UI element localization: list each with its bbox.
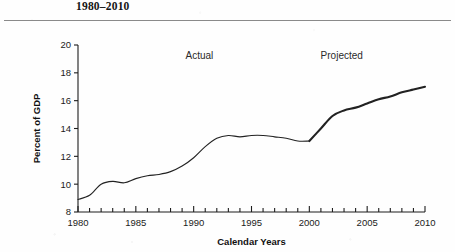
y-axis: 8101214161820 [60, 39, 78, 217]
x-tick-label: 1995 [241, 217, 262, 228]
x-axis-title: Calendar Years [217, 236, 285, 247]
y-tick-label: 12 [60, 151, 71, 162]
y-tick-label: 10 [60, 179, 71, 190]
series-line-projected [309, 87, 425, 141]
y-axis-title: Percent of GDP [31, 93, 42, 163]
x-axis: 1980198519901995200020052010 [67, 206, 435, 228]
x-tick-label: 1990 [183, 217, 204, 228]
y-tick-label: 18 [60, 67, 71, 78]
x-tick-label: 2005 [357, 217, 378, 228]
series-line-actual [78, 135, 309, 199]
y-tick-label: 14 [60, 123, 71, 134]
x-tick-label: 1985 [125, 217, 146, 228]
y-tick-label: 8 [66, 206, 71, 217]
x-tick-label: 2000 [299, 217, 320, 228]
chart-annotations: ActualProjected [186, 50, 363, 61]
chart-canvas: 8101214161820 19801985199019952000200520… [0, 0, 455, 252]
annotation-actual: Actual [186, 50, 214, 61]
annotation-projected: Projected [321, 50, 363, 61]
x-tick-label: 2010 [414, 217, 435, 228]
data-series-group [78, 87, 425, 200]
figure-page: 1980–2010 8101214161820 1980198519901995… [0, 0, 455, 252]
y-tick-label: 20 [60, 39, 71, 50]
x-tick-label: 1980 [67, 217, 88, 228]
y-tick-label: 16 [60, 95, 71, 106]
